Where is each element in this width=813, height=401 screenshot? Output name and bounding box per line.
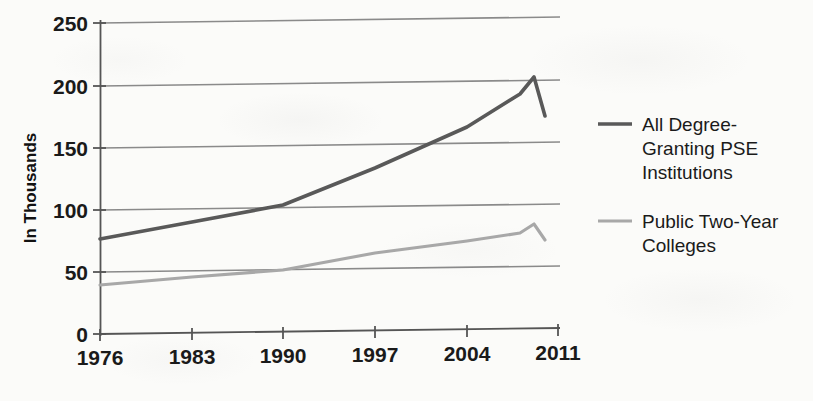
x-tick-label-1976: 1976 [77, 346, 124, 369]
x-tick-label-2011: 2011 [535, 341, 581, 364]
y-tick-label-50: 50 [65, 261, 88, 284]
legend-item-all-degree-granting-pse-institutions: All Degree- Granting PSE Institutions [598, 114, 758, 183]
y-tick-label-100: 100 [53, 199, 88, 222]
series-line-public-two-year-colleges [100, 224, 545, 285]
x-tick-label-1997: 1997 [352, 343, 399, 366]
x-tick-label-1990: 1990 [260, 344, 307, 367]
x-axis-tick-labels: 1976 1983 1990 1997 2004 2011 [77, 341, 581, 369]
axis-lines [100, 20, 560, 336]
x-tick-label-1983: 1983 [169, 345, 216, 368]
x-axis-line [100, 328, 560, 334]
y-axis-ticks [93, 23, 106, 334]
x-tick-label-2004: 2004 [444, 342, 491, 365]
gridline-50 [100, 266, 560, 272]
legend-label-series1-line1: All Degree- [642, 114, 737, 135]
y-axis-tick-labels: 250 200 150 100 50 0 [53, 12, 88, 346]
legend-label-series2-line2: Colleges [642, 235, 716, 256]
legend-label-series2-line1: Public Two-Year [642, 211, 779, 232]
gridline-150 [100, 142, 560, 148]
gridline-100 [100, 204, 560, 210]
legend-item-public-two-year-colleges: Public Two-Year Colleges [598, 211, 779, 256]
y-tick-label-250: 250 [53, 12, 88, 35]
y-tick-label-150: 150 [53, 137, 88, 160]
legend-label-series1-line2: Granting PSE [642, 138, 758, 159]
chart-page: 250 200 150 100 50 0 1976 1983 1990 1997… [0, 0, 813, 401]
line-chart: 250 200 150 100 50 0 1976 1983 1990 1997… [0, 0, 813, 401]
gridline-250 [100, 17, 560, 23]
gridlines [100, 17, 560, 272]
y-tick-label-0: 0 [76, 323, 88, 346]
y-axis-title: In Thousands [21, 133, 40, 244]
gridline-200 [100, 80, 560, 86]
y-tick-label-200: 200 [53, 75, 88, 98]
legend-label-series1-line3: Institutions [642, 162, 733, 183]
series-line-all-degree-granting-pse-institutions [100, 77, 545, 239]
chart-legend: All Degree- Granting PSE Institutions Pu… [598, 114, 779, 256]
